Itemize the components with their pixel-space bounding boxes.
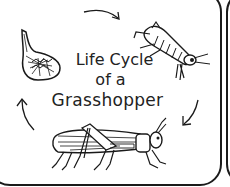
arrow-adult-to-egg — [14, 96, 38, 132]
arrow-egg-to-nymph — [82, 8, 122, 22]
nymph-grasshopper-icon — [132, 20, 212, 84]
arrow-nymph-to-adult — [180, 98, 202, 128]
adjacent-card-edge — [226, 0, 230, 186]
egg-pod-icon — [18, 28, 63, 84]
adult-grasshopper-icon — [50, 116, 170, 176]
title-line-3: Grasshopper — [40, 90, 175, 110]
